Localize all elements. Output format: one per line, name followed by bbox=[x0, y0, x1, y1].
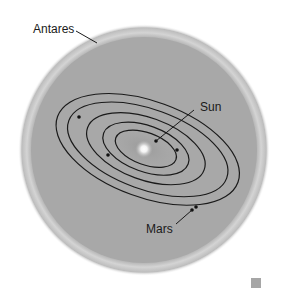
corner-square bbox=[251, 278, 261, 288]
antares-label: Antares bbox=[33, 23, 74, 35]
planet-dot bbox=[175, 148, 179, 152]
antares-diagram bbox=[0, 0, 281, 299]
planet-dot bbox=[106, 153, 110, 157]
sun-label: Sun bbox=[200, 101, 221, 113]
planet-dot bbox=[77, 115, 81, 119]
sun-glow bbox=[135, 140, 153, 158]
mars-label: Mars bbox=[146, 223, 173, 235]
planet-dot bbox=[194, 205, 198, 209]
